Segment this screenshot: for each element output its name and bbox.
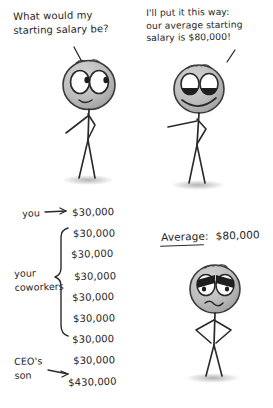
applicant-left-leg	[79, 140, 88, 178]
disgruntled-left-leg	[206, 345, 214, 376]
employer-left-arm	[168, 121, 197, 127]
applicant-left-pupil	[84, 77, 89, 83]
salary-amount-coworker-5: $30,000	[73, 311, 115, 325]
average-readout: Average: $80,000	[161, 227, 260, 244]
applicant-figure	[62, 47, 115, 185]
label-you: you	[22, 206, 40, 220]
employer-left-leg	[189, 145, 197, 183]
applicant-ground-shadow	[62, 175, 114, 185]
disgruntled-right-arm	[214, 320, 231, 343]
disgruntled-torso	[214, 313, 215, 345]
employer-figure	[168, 50, 235, 190]
salary-amount-coworker-6: $30,000	[72, 332, 114, 347]
comic-canvas: What would my starting salary be? I'll p…	[0, 0, 273, 408]
average-label: Average:	[161, 230, 209, 243]
panel-two-speech-tail	[227, 50, 235, 62]
disgruntled-right-leg	[214, 345, 222, 376]
applicant-left-arm	[66, 116, 88, 133]
employer-right-leg	[197, 145, 205, 183]
salary-amount-coworker-2: $30,000	[71, 247, 113, 262]
disgruntled-right-pupil	[225, 286, 229, 291]
ceo-son-arrow-head	[61, 371, 68, 377]
label-your-coworkers: your coworkers	[14, 266, 64, 296]
average-value: $80,000	[215, 228, 259, 241]
panel-one-speech-tail	[74, 47, 82, 62]
disgruntled-ground-shadow	[186, 373, 240, 383]
salary-amount-you-0: $30,000	[72, 205, 114, 220]
applicant-right-leg	[88, 140, 95, 178]
applicant-right-pupil	[103, 77, 108, 83]
disgruntled-figure	[186, 265, 240, 383]
salary-amount-coworker-4: $30,000	[72, 290, 114, 305]
comic-drawing-layer	[0, 0, 273, 408]
employer-ground-shadow	[171, 180, 225, 190]
label-ceos-son: CEO's son	[14, 354, 43, 383]
disgruntled-left-pupil	[202, 286, 206, 291]
salary-amount-ceo-son-8: $430,000	[68, 374, 117, 389]
salary-amount-coworker-7: $30,000	[73, 354, 115, 369]
salary-amount-coworker-1: $30,000	[73, 227, 115, 241]
disgruntled-left-arm	[196, 320, 214, 343]
salary-amount-coworker-3: $30,000	[74, 269, 116, 283]
